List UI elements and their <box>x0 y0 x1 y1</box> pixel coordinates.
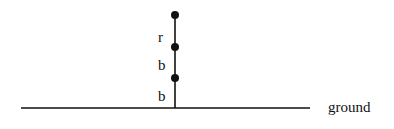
segment-label-r: r <box>158 29 163 45</box>
node-top <box>171 11 179 19</box>
node-lower <box>171 74 179 82</box>
segment-label-b-lower: b <box>158 88 166 104</box>
ground-label: ground <box>328 99 371 115</box>
diagram-canvas: r b b ground <box>0 0 394 129</box>
node-middle <box>171 43 179 51</box>
segment-label-b-upper: b <box>158 57 166 73</box>
